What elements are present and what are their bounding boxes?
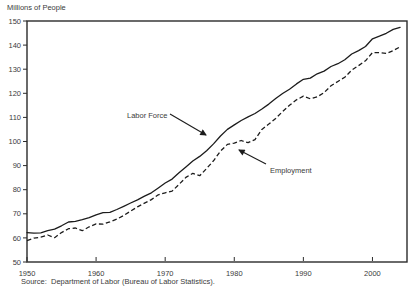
- labor-force-annotation: Labor Force: [127, 111, 167, 120]
- y-axis-tick-labels: 5060708090100110120130140150: [8, 17, 21, 267]
- y-tick-label: 120: [8, 89, 21, 98]
- source-note: Source: Department of Labor (Bureau of L…: [21, 277, 215, 286]
- y-tick-label: 90: [13, 161, 21, 170]
- employment-annotation: Employment: [270, 166, 312, 175]
- plot-frame: [27, 21, 407, 262]
- y-tick-label: 150: [8, 17, 21, 26]
- y-tick-label: 70: [13, 209, 21, 218]
- labor-force-line: [27, 27, 400, 233]
- x-tick-label: 1980: [226, 269, 243, 278]
- employment-arrow: [239, 150, 266, 164]
- y-tick-label: 100: [8, 137, 21, 146]
- chart-figure: Millions of People 506070809010011012013…: [0, 0, 416, 297]
- y-tick-label: 50: [13, 258, 21, 267]
- y-tick-label: 60: [13, 234, 21, 243]
- y-tick-label: 80: [13, 185, 21, 194]
- x-axis-ticks: [27, 257, 372, 261]
- y-tick-label: 110: [9, 113, 21, 122]
- y-tick-label: 130: [8, 65, 21, 74]
- labor-force-arrow: [170, 114, 206, 135]
- x-tick-label: 2000: [364, 269, 381, 278]
- chart-canvas: 5060708090100110120130140150 19501960197…: [0, 0, 416, 297]
- y-tick-label: 140: [8, 41, 21, 50]
- x-tick-label: 1990: [295, 269, 312, 278]
